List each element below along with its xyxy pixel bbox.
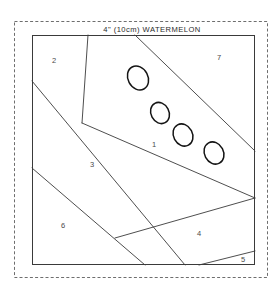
piece-label-2: 2 xyxy=(52,56,56,65)
piece-label-6: 6 xyxy=(61,221,65,230)
piece-label-3: 3 xyxy=(90,160,94,169)
piece-label-5: 5 xyxy=(241,255,245,264)
block-title: 4" (10cm) WATERMELON xyxy=(103,25,200,34)
piece-label-7: 7 xyxy=(217,53,221,62)
quilt-block-diagram: 4" (10cm) WATERMELON 1 2 3 4 5 6 xyxy=(0,0,280,292)
piece-label-1: 1 xyxy=(152,140,156,149)
pattern-card: 4" (10cm) WATERMELON 1 2 3 4 5 6 xyxy=(0,0,280,292)
piece-label-4: 4 xyxy=(197,229,201,238)
